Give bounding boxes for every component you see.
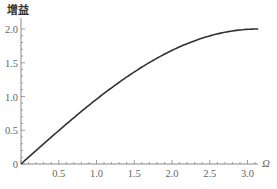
y-tick-label: 1.0 [5,92,18,103]
y-tick-label: 0.5 [5,125,18,136]
gain-curve [21,29,258,164]
y-tick-label: 0 [13,159,18,170]
x-tick-label: 0.5 [52,168,65,179]
x-axis-title: Ω [262,157,270,169]
gain-chart: 0.51.01.52.02.53.000.51.01.52.0Ω [0,0,277,189]
x-tick-label: 2.0 [165,168,178,179]
y-tick-label: 1.5 [5,58,18,69]
x-tick-label: 3.0 [241,168,254,179]
y-tick-label: 2.0 [5,24,18,35]
x-tick-label: 2.5 [203,168,216,179]
x-tick-label: 1.0 [90,168,103,179]
x-tick-label: 1.5 [128,168,141,179]
